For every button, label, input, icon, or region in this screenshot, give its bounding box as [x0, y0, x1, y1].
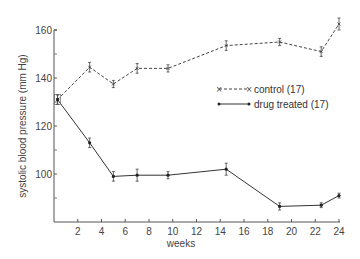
legend-drug-marker-right [248, 103, 251, 106]
x-tick-label: 22 [310, 226, 322, 237]
data-point [88, 141, 91, 144]
legend-drug-label: drug treated (17) [254, 99, 329, 110]
data-point [166, 174, 169, 177]
legend: × × control (17) drug treated (17) [216, 84, 329, 110]
y-axis-title: systolic blood pressure (mm Hg) [17, 54, 28, 197]
y-tick-label: 140 [35, 73, 52, 84]
data-point [225, 168, 228, 171]
axes: 10012014016024681012141618202224 [35, 25, 345, 237]
x-tick-label: 12 [191, 226, 203, 237]
data-point [337, 194, 340, 197]
y-tick-label: 120 [35, 121, 52, 132]
x-tick-label: 10 [167, 226, 179, 237]
data-point [56, 98, 59, 101]
legend-drug-marker-left [218, 103, 221, 106]
series-line [58, 100, 339, 207]
blood-pressure-chart: 10012014016024681012141618202224 × × con… [0, 0, 360, 259]
legend-control-marker-left: × [216, 85, 223, 94]
x-tick-label: 18 [262, 226, 274, 237]
series-drug-treated [56, 95, 341, 210]
x-tick-label: 16 [238, 226, 250, 237]
series-layer [55, 18, 341, 210]
data-point [278, 205, 281, 208]
y-tick-label: 100 [35, 169, 52, 180]
y-tick-label: 160 [35, 25, 52, 36]
data-point [112, 175, 115, 178]
x-tick-label: 8 [146, 226, 152, 237]
x-axis-title: weeks [166, 238, 195, 249]
x-tick-label: 6 [122, 226, 128, 237]
data-point [136, 174, 139, 177]
x-tick-label: 4 [99, 226, 105, 237]
x-tick-label: 2 [75, 226, 81, 237]
x-tick-label: 14 [215, 226, 227, 237]
legend-control-marker-right: × [246, 85, 253, 94]
data-point [320, 204, 323, 207]
x-tick-label: 20 [286, 226, 298, 237]
x-tick-label: 24 [333, 226, 345, 237]
legend-control-label: control (17) [254, 84, 305, 95]
